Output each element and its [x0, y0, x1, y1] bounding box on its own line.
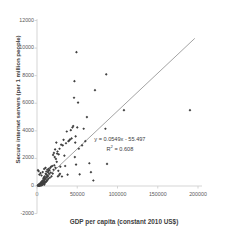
data-point: [55, 141, 58, 144]
trendline: [37, 38, 195, 186]
data-point: [57, 169, 60, 172]
data-point: [88, 162, 91, 165]
data-point: [82, 127, 85, 130]
plot-area: [0, 0, 228, 233]
data-point: [104, 127, 107, 130]
data-point: [78, 173, 81, 176]
data-point: [73, 80, 76, 83]
data-point: [94, 89, 97, 92]
data-point: [63, 154, 66, 157]
data-point: [106, 163, 109, 166]
data-point: [105, 73, 108, 76]
data-point: [189, 109, 192, 112]
data-point: [75, 51, 78, 54]
data-point: [64, 165, 67, 168]
data-point: [77, 101, 80, 104]
data-point: [69, 129, 72, 132]
data-point: [55, 161, 58, 164]
trendline-equation-label: y = 0.0549x - 55.497: [70, 136, 170, 142]
scatter-chart: Secure internet servers (per 1 million p…: [0, 0, 228, 233]
data-point: [65, 142, 68, 145]
data-point: [73, 156, 76, 159]
data-point: [62, 138, 65, 141]
data-point: [66, 173, 69, 176]
data-point: [90, 171, 93, 174]
trendline-r2-label: R2 = 0.608: [70, 144, 170, 152]
data-point: [75, 163, 78, 166]
data-point: [65, 130, 68, 133]
data-point: [61, 175, 64, 178]
data-point: [73, 96, 76, 99]
data-point: [123, 109, 126, 112]
x-axis-title: GDP per capita (constant 2010 US$): [24, 218, 224, 225]
data-point: [92, 179, 95, 182]
data-point: [54, 148, 57, 151]
data-point: [86, 116, 89, 119]
data-point: [76, 126, 79, 129]
data-points: [36, 51, 191, 187]
data-point: [58, 147, 61, 150]
data-point: [56, 150, 59, 153]
